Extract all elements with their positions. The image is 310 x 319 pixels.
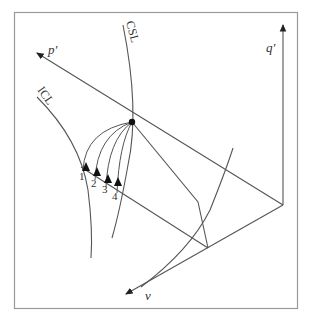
p-label: p′ [47,42,58,57]
p-axis [37,53,283,205]
path-label-4: 4 [112,190,118,202]
icl-label: ICL [35,84,58,108]
critical-state-point [129,119,135,125]
q-label: q′ [266,40,276,55]
path-label-1: 1 [79,170,85,182]
path-label-2: 2 [91,177,97,189]
arrow-icon [114,177,122,186]
path-label-3: 3 [102,183,108,195]
projection-line [81,167,208,248]
path-3 [106,122,132,187]
v-label: v [145,288,151,303]
diagram-canvas: p′ q′ v CSL ICL 1 2 3 4 [0,0,310,319]
csl-projection [132,122,208,248]
csl-projected-curve [141,148,233,287]
arrow-icon [93,167,101,176]
arrow-icon [104,174,112,183]
